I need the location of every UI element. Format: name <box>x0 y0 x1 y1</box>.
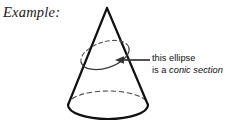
cone-base-back-arc <box>68 91 148 105</box>
conic-section-ellipse <box>77 35 133 75</box>
cone-left-side <box>68 8 107 105</box>
diagram-canvas: Example: this ellipse is a conic section <box>0 0 239 126</box>
callout-text: this ellipse is a conic section <box>152 53 238 76</box>
cone-base-front-arc <box>68 105 148 119</box>
callout-term-conic-section: conic section <box>169 65 223 75</box>
callout-line-1: this ellipse <box>152 53 238 65</box>
callout-line-2-prefix: is a <box>152 65 169 75</box>
callout-line-2: is a conic section <box>152 65 238 77</box>
cone-right-side <box>107 8 148 105</box>
